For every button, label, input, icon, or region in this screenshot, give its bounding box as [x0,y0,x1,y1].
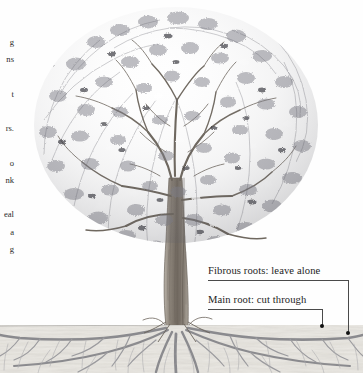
root-system [0,319,363,373]
callout-fibrous-roots: Fibrous roots: leave alone [208,265,320,276]
tree-illustration [0,0,363,373]
illustration-page: g ns t rs. o nk eal a g [0,0,363,373]
leader-line-fibrous-horizontal [208,280,348,281]
leader-dot-main [320,324,324,328]
callout-main-root: Main root: cut through [208,294,306,305]
leader-line-fibrous-vertical [348,280,349,333]
tree-canopy [30,0,330,254]
leader-dot-fibrous [346,331,350,335]
leader-line-main-horizontal [208,309,322,310]
